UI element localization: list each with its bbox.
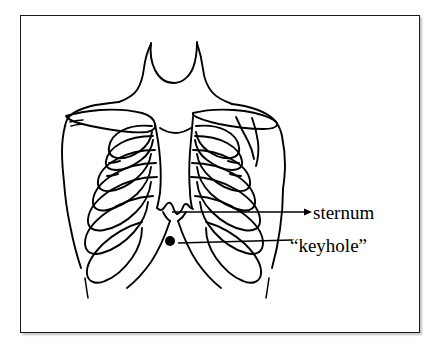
figure-root: sternum “keyhole” — [0, 0, 440, 355]
keyhole-dot-marker — [165, 236, 175, 246]
neck-and-shoulders — [119, 42, 232, 104]
left-clavicle — [66, 110, 155, 133]
left-ribs — [85, 126, 157, 283]
anatomy-illustration — [0, 0, 440, 355]
callout-label-keyhole: “keyhole” — [290, 236, 367, 255]
arrow-right-icon — [304, 209, 312, 216]
sternum-bone — [155, 117, 193, 208]
callout-label-sternum: sternum — [313, 203, 374, 222]
